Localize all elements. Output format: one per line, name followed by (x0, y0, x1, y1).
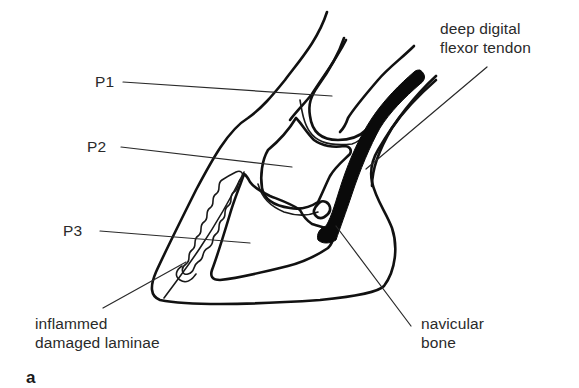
deep-digital-flexor-tendon (317, 70, 424, 243)
label-ddft-line1: deep digital (440, 19, 531, 38)
label-laminae-line1: inflammed (35, 314, 160, 333)
leader-p2 (121, 147, 292, 167)
laminae-wavy (182, 171, 242, 274)
p3-bone (211, 174, 333, 280)
hoof-wall-front (152, 12, 436, 304)
label-p3: P3 (63, 221, 82, 240)
panel-letter: a (26, 368, 35, 388)
label-laminae: inflammed damaged laminae (35, 314, 160, 352)
label-navicular-line1: navicular (421, 314, 484, 333)
label-laminae-line2: damaged laminae (35, 333, 160, 352)
leader-p1 (123, 82, 332, 96)
label-ddft: deep digital flexor tendon (440, 19, 531, 57)
leader-navicular (336, 226, 411, 326)
label-p2: P2 (87, 137, 106, 156)
label-ddft-line2: flexor tendon (440, 38, 531, 57)
label-p1: P1 (95, 72, 114, 91)
p1-bone (309, 38, 366, 140)
label-navicular-line2: bone (421, 333, 484, 352)
label-navicular: navicular bone (421, 314, 484, 352)
